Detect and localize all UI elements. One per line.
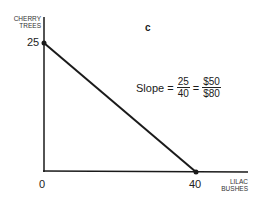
slope-fraction-price: $50 $80 bbox=[202, 76, 221, 99]
chart-canvas bbox=[0, 0, 261, 201]
x-intercept-point bbox=[194, 170, 199, 175]
y-tick-25: 25 bbox=[27, 36, 39, 48]
y-axis-label: CHERRY TREES bbox=[12, 15, 41, 29]
slope-fraction-quantity: 25 40 bbox=[177, 76, 190, 99]
slope-prefix: Slope = bbox=[136, 82, 174, 94]
budget-line bbox=[44, 43, 196, 172]
x-tick-40: 40 bbox=[189, 178, 201, 190]
x-tick-0: 0 bbox=[39, 178, 45, 190]
x-axis-label: LILAC BUSHES bbox=[218, 178, 248, 192]
slope-annotation: Slope = 25 40 = $50 $80 bbox=[136, 76, 221, 99]
x-axis bbox=[43, 171, 248, 172]
y-intercept-point bbox=[42, 41, 47, 46]
panel-label: c bbox=[145, 22, 151, 33]
